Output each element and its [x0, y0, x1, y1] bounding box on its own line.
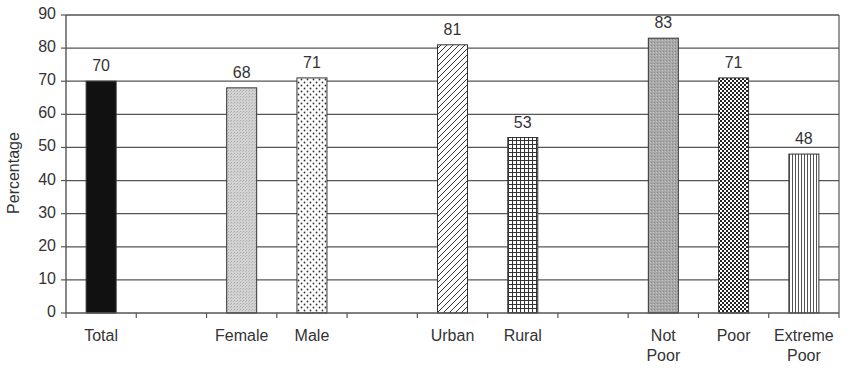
y-tick-label: 80: [16, 38, 56, 56]
y-axis-label: Percentage: [5, 123, 23, 223]
bar-not-poor: [648, 38, 678, 313]
x-tick-label: Rural: [483, 326, 563, 346]
x-tick-label: NotPoor: [623, 326, 703, 366]
y-tick-label: 20: [16, 237, 56, 255]
bar-poor: [719, 78, 749, 313]
data-label: 53: [493, 114, 553, 132]
y-tick-label: 10: [16, 270, 56, 288]
x-tick-label: Male: [272, 326, 352, 346]
data-label: 68: [212, 64, 272, 82]
data-label: 83: [633, 14, 693, 32]
data-label: 71: [282, 54, 342, 72]
bar-male: [297, 78, 327, 313]
bars: [86, 38, 819, 313]
bar-female: [227, 88, 257, 313]
bar-total: [86, 81, 116, 313]
data-label: 70: [71, 57, 131, 75]
x-tick-label: Total: [61, 326, 141, 346]
y-tick-label: 0: [16, 303, 56, 321]
data-label: 48: [774, 130, 834, 148]
y-tick-label: 70: [16, 71, 56, 89]
x-tick-label: Female: [202, 326, 282, 346]
y-tick-label: 90: [16, 5, 56, 23]
bar-rural: [508, 138, 538, 313]
bar-extreme-poor: [789, 154, 819, 313]
data-label: 71: [704, 54, 764, 72]
x-tick-label: ExtremePoor: [764, 326, 844, 366]
x-tick-label: Urban: [413, 326, 493, 346]
bar-urban: [438, 45, 468, 313]
data-label: 81: [423, 21, 483, 39]
x-tick-label: Poor: [694, 326, 774, 346]
y-tick-label: 60: [16, 104, 56, 122]
